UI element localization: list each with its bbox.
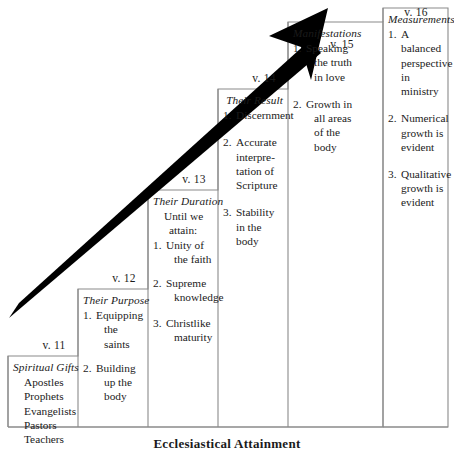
list-line: body — [236, 234, 284, 248]
verse-label-v12: v. 12 — [96, 272, 152, 284]
list-item: 1. A balanced perspective in ministry — [388, 27, 444, 98]
list-item: 3. Christlike maturity — [153, 316, 214, 344]
list-line: A balanced — [401, 27, 444, 55]
column-v12-list: 1. Equipping the saints 2. Building up t… — [83, 308, 144, 403]
column-v15-list: 1. Speaking the truth in love 2. Growth … — [293, 41, 379, 154]
list-marker: 1. — [153, 238, 161, 252]
list-marker: 3. — [223, 205, 231, 219]
figure-caption: Ecclesiastical Attainment — [0, 436, 454, 449]
verse-label-v14: v. 14 — [236, 72, 292, 84]
list-marker: 2. — [388, 111, 396, 125]
list-marker: 2. — [293, 97, 301, 111]
lead-line: Until we — [164, 209, 214, 223]
list-line: growth is — [401, 126, 444, 140]
list-line: evident — [401, 195, 444, 209]
list-marker: 2. — [223, 135, 231, 149]
column-v16-list: 1. A balanced perspective in ministry 2.… — [388, 27, 444, 209]
list-item: 3. Stability in the body — [223, 205, 284, 248]
list-item: Apostles — [24, 375, 74, 389]
list-line: Supreme — [166, 276, 214, 290]
verse-label-v13: v. 13 — [166, 173, 222, 185]
list-marker: 3. — [388, 167, 396, 181]
list-item: 2. Accurate interpre- tation of Scriptur… — [223, 135, 284, 192]
column-v13-list: 1. Unity of the faith 2. Supreme knowled… — [153, 238, 214, 344]
list-item: Pastors — [24, 418, 74, 432]
verse-label-v11: v. 11 — [26, 339, 82, 351]
list-item: 2. Supreme knowledge — [153, 276, 214, 304]
column-v16-heading: Measurements — [388, 12, 444, 26]
list-item: 1. Discernment — [223, 108, 284, 122]
column-v11-heading: Spiritual Gifts — [13, 360, 74, 374]
column-v15: Manifestations 1. Speaking the truth in … — [288, 23, 383, 427]
column-v12: Their Purpose 1. Equipping the saints 2.… — [78, 290, 148, 427]
list-line: Qualitative — [401, 167, 444, 181]
column-v15-heading: Manifestations — [293, 26, 379, 40]
list-line: tation of — [236, 164, 284, 178]
list-line: growth is — [401, 181, 444, 195]
list-line: Discernment — [236, 108, 284, 122]
column-v13-heading: Their Duration — [153, 194, 214, 208]
list-item: 3. Qualitative growth is evident — [388, 167, 444, 210]
list-line: Scripture — [236, 178, 284, 192]
column-v13-lead: Until we attain: — [153, 209, 214, 237]
list-line: the faith — [166, 252, 214, 266]
list-marker: 1. — [223, 108, 231, 122]
list-line: Stability — [236, 205, 284, 219]
column-v14: Their Result 1. Discernment 2. Accurate … — [218, 90, 288, 427]
list-marker: 1. — [83, 308, 91, 322]
list-line: up the — [96, 375, 144, 389]
list-line: of the — [306, 125, 379, 139]
list-line: Numerical — [401, 111, 444, 125]
list-item: 1. Equipping the saints — [83, 308, 144, 351]
list-marker: 2. — [153, 276, 161, 290]
list-line: in the — [236, 220, 284, 234]
column-v11: Spiritual Gifts Apostles Prophets Evange… — [8, 357, 78, 427]
list-line: Building — [96, 361, 144, 375]
list-line: Christlike — [166, 316, 214, 330]
list-item: 2. Building up the body — [83, 361, 144, 404]
list-line: Accurate — [236, 135, 284, 149]
list-line: the truth — [306, 55, 379, 69]
figure-canvas: v. 11 v. 12 v. 13 v. 14 v. 15 v. 16 Spir… — [0, 0, 454, 449]
list-marker: 2. — [83, 361, 91, 375]
list-line: maturity — [166, 330, 214, 344]
list-item: 2. Numerical growth is evident — [388, 111, 444, 154]
list-line: the saints — [96, 322, 144, 350]
list-line: knowledge — [166, 290, 214, 304]
column-v13: Their Duration Until we attain: 1. Unity… — [148, 191, 218, 427]
list-line: interpre- — [236, 150, 284, 164]
list-item: Prophets — [24, 389, 74, 403]
column-v16: Measurements 1. A balanced perspective i… — [383, 9, 448, 427]
list-marker: 1. — [388, 27, 396, 41]
list-line: body — [96, 389, 144, 403]
list-line: Growth in — [306, 97, 379, 111]
list-line: body — [306, 140, 379, 154]
list-line: all areas — [306, 111, 379, 125]
list-marker: 3. — [153, 316, 161, 330]
list-line: Equipping — [96, 308, 144, 322]
list-line: in ministry — [401, 70, 444, 98]
column-v12-heading: Their Purpose — [83, 293, 144, 307]
list-line: in love — [306, 70, 379, 84]
lead-line: attain: — [164, 223, 214, 237]
list-item: Evangelists — [24, 404, 74, 418]
list-line: perspective — [401, 56, 444, 70]
list-line: evident — [401, 140, 444, 154]
column-v14-list: 1. Discernment 2. Accurate interpre- tat… — [223, 108, 284, 248]
list-item: 1. Speaking the truth in love — [293, 41, 379, 84]
column-v14-heading: Their Result — [223, 93, 284, 107]
list-item: 1. Unity of the faith — [153, 238, 214, 266]
list-line: Unity of — [166, 238, 214, 252]
list-line: Speaking — [306, 41, 379, 55]
list-marker: 1. — [293, 41, 301, 55]
list-item: 2. Growth in all areas of the body — [293, 97, 379, 154]
